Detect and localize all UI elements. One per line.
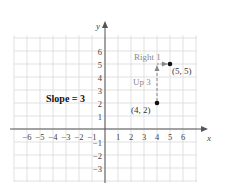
y-tick-label: 4 <box>98 73 103 83</box>
y-tick-label: 2 <box>98 99 102 109</box>
x-tick-label: −4 <box>48 132 58 142</box>
x-axis-label: x <box>206 133 211 143</box>
x-tick-label: 6 <box>181 132 185 142</box>
x-tick-label: 3 <box>142 132 146 142</box>
x-tick-label: −3 <box>61 132 70 142</box>
x-tick-labels: −6−5−4−3−2−1123456 <box>22 132 185 142</box>
up-arrow <box>155 65 160 101</box>
right-arrow <box>157 62 168 67</box>
y-tick-label: 6 <box>98 47 102 57</box>
y-tick-label: −2 <box>93 151 102 161</box>
x-tick-label: 5 <box>168 132 172 142</box>
point-4-2 <box>155 101 160 106</box>
x-tick-label: −6 <box>22 132 31 142</box>
right-annotation: Right 1 <box>134 52 161 62</box>
point-a-label: (4, 2) <box>131 105 151 115</box>
y-tick-label: −3 <box>93 164 102 174</box>
x-tick-label: 2 <box>129 132 133 142</box>
y-tick-label: 1 <box>98 112 102 122</box>
coordinate-plane: x y −6−5−4−3−2−1123456 654321−1−2−3 (4, … <box>0 0 225 194</box>
y-tick-label: 3 <box>98 86 102 96</box>
y-tick-label: 5 <box>98 60 102 70</box>
x-tick-label: 1 <box>116 132 120 142</box>
x-tick-label: −5 <box>35 132 44 142</box>
y-tick-label: −1 <box>93 138 102 148</box>
point-b-label: (5, 5) <box>172 66 192 76</box>
x-tick-label: −2 <box>74 132 83 142</box>
slope-label: Slope = 3 <box>46 93 85 104</box>
x-tick-label: 4 <box>155 132 160 142</box>
y-tick-labels: 654321−1−2−3 <box>93 47 103 174</box>
y-axis-label: y <box>95 21 100 31</box>
y-axis <box>102 21 108 183</box>
up-annotation: Up 3 <box>133 77 151 87</box>
